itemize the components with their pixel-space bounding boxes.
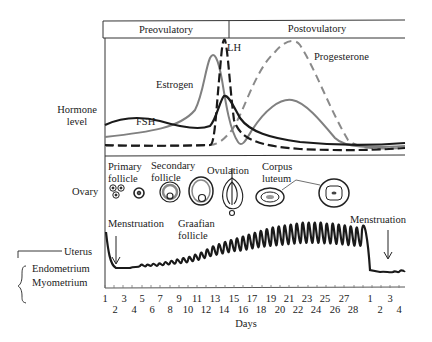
corpus-luteum-label-1: Corpus <box>262 161 292 172</box>
hormone-panel-bottom <box>105 155 405 156</box>
x-axis-label: Days <box>226 318 266 329</box>
menstruation-start-label: Menstruation <box>108 218 164 229</box>
hormone-axis-label-line1: Hormone <box>50 104 104 115</box>
endometrium-label: Endometrium <box>32 263 90 274</box>
primary-follicle-label-1: Primary <box>108 161 142 172</box>
phase-preovulatory: Preovulatory <box>103 24 229 35</box>
secondary-follicle-label-1: Secondary <box>151 160 195 171</box>
endometrium-curve <box>106 223 405 273</box>
fsh-label: FSH <box>136 116 155 127</box>
uterus-label: Uterus <box>64 246 92 257</box>
menstruation-end-label: Menstruation <box>350 214 406 225</box>
progesterone-label: Progesterone <box>314 51 369 62</box>
estrogen-label: Estrogen <box>156 79 193 90</box>
ovary-row-label: Ovary <box>72 186 98 197</box>
phase-bar-top <box>103 20 405 21</box>
ovulation-label: Ovulation <box>207 165 249 176</box>
primary-follicle-label-2: follicle <box>108 173 138 184</box>
secondary-follicle-icon <box>160 182 180 202</box>
hormone-axis-label-line2: level <box>50 116 104 127</box>
corpus-luteum-label-2: luteum <box>262 173 291 184</box>
primary-follicles-icon <box>110 185 124 198</box>
graafian-follicle-icon <box>189 177 213 205</box>
graafian-follicle-label-2: follicle <box>178 230 208 241</box>
phase-postovulatory: Postovulatory <box>229 23 405 34</box>
myometrium-label: Myometrium <box>32 277 87 288</box>
x-axis <box>105 287 405 288</box>
corpus-luteum-early-icon <box>256 188 284 206</box>
corpus-luteum-late-icon <box>319 179 349 207</box>
menstruation-arrow-start <box>112 236 120 264</box>
estrogen-curve <box>105 55 405 147</box>
lh-label: LH <box>227 42 241 53</box>
primary-follicle-single-icon <box>134 188 144 198</box>
menstruation-arrow-end <box>384 230 392 259</box>
secondary-follicle-label-2: follicle <box>151 172 181 183</box>
graafian-follicle-label-1: Graafian <box>178 218 215 229</box>
